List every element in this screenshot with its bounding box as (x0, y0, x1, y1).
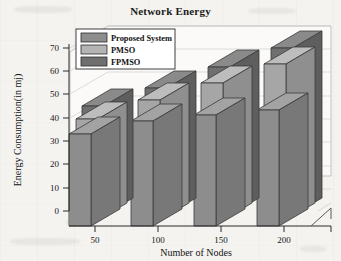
legend-swatch-icon (81, 45, 107, 54)
y-tick-label: 60 (50, 66, 60, 76)
y-axis-title: Energy Consumption(in mj) (12, 74, 24, 187)
x-axis-title: Number of Nodes (160, 247, 232, 258)
x-tick-label: 200 (277, 235, 291, 245)
legend-swatch-icon (81, 33, 107, 42)
y-tick-label: 0 (55, 206, 60, 216)
bar-50-proposed (69, 117, 120, 226)
plot-svg: 70 60 50 40 30 20 10 0 50 100 150 200 Nu… (0, 0, 341, 261)
legend-swatch-icon (81, 57, 107, 66)
x-axis-tick-labels: 50 100 150 200 (91, 235, 292, 245)
chart-figure: Network Energy (0, 0, 341, 261)
y-tick-label: 50 (50, 89, 60, 99)
bar-200-proposed (257, 93, 308, 226)
y-tick-label: 20 (50, 159, 60, 169)
legend[interactable]: Proposed System PMSO FPMSO (76, 29, 175, 69)
bar-150-proposed (194, 98, 245, 226)
y-tick-label: 30 (50, 136, 60, 146)
x-tick-label: 150 (214, 235, 228, 245)
legend-label: FPMSO (111, 58, 141, 67)
y-tick-label: 70 (50, 43, 60, 53)
x-tick-label: 100 (151, 235, 165, 245)
y-tick-label: 10 (50, 183, 60, 193)
x-tick-label: 50 (91, 235, 101, 245)
legend-label: Proposed System (111, 34, 172, 43)
y-axis-tick-labels: 70 60 50 40 30 20 10 0 (50, 43, 60, 216)
y-axis-ticks (63, 48, 69, 211)
y-tick-label: 40 (50, 113, 60, 123)
legend-label: PMSO (111, 46, 136, 55)
bar-100-proposed (131, 104, 182, 226)
legend-item-fpmso[interactable]: FPMSO (81, 57, 141, 67)
legend-item-proposed-system[interactable]: Proposed System (81, 33, 172, 43)
